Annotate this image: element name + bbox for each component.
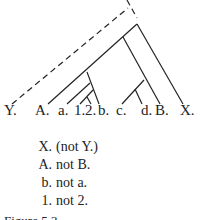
rule-key: b.	[34, 175, 52, 191]
leaf-label: Y.	[4, 102, 17, 118]
rule-text: (not Y.)	[56, 139, 98, 154]
cladogram	[0, 0, 201, 110]
branch-x	[137, 24, 183, 104]
rule-key: 1.	[34, 193, 52, 209]
dashed-branch-y	[12, 8, 128, 104]
rule-text: not a.	[56, 175, 87, 190]
leaf-label: A.	[35, 102, 50, 118]
leaf-label: a.	[58, 102, 68, 118]
leaf-label: d.	[141, 102, 152, 118]
rule-key: A.	[34, 157, 52, 173]
leaf-label: B.	[155, 102, 169, 118]
figure-caption: Figure 5.3	[4, 213, 57, 220]
branch-b	[123, 37, 160, 104]
leaf-label: 1.	[74, 102, 85, 118]
leaf-label: b.	[98, 102, 109, 118]
dashed-root-stub	[127, 0, 137, 18]
leaf-label: 2.	[85, 102, 96, 118]
leaf-label: c.	[116, 102, 126, 118]
rule-key: X.	[34, 139, 52, 155]
branch-a	[48, 24, 137, 104]
branch-a-small	[67, 83, 90, 104]
rule-row: A.not B.	[34, 157, 90, 173]
rule-text: not 2.	[56, 193, 88, 208]
rule-row: 1.not 2.	[34, 193, 88, 209]
rule-row: b.not a.	[34, 175, 87, 191]
rule-row: X.(not Y.)	[34, 139, 98, 155]
rule-text: not B.	[56, 157, 90, 172]
leaf-label: X.	[180, 102, 195, 118]
